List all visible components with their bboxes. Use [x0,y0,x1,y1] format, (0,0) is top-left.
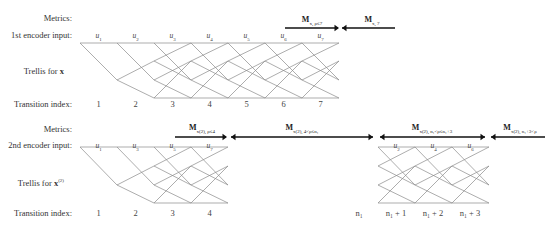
top-branch [265,61,302,98]
transition-index-bottom: 3 [170,208,174,218]
transition-index-bottom: 4 [207,208,211,218]
top-branch [154,43,191,80]
metric-arrow-head-left [342,25,346,31]
trellis-x-text: Trellis for [24,66,60,76]
trellis-diagram [0,0,551,231]
enc2-input-symbol: u5 [169,141,175,152]
bottom-left-branch [191,147,228,185]
enc1-input-symbol: u2 [132,31,138,42]
enc2-input-symbol-right: u4 [430,141,436,152]
top-branch [191,80,228,98]
top-branch [117,43,154,80]
bottom-left-branch [80,147,117,185]
transition-index-top: 7 [318,99,322,109]
metric-arrow-head-left [491,134,495,140]
metric-label-top-future: Mx, 7 [364,15,379,26]
bottom-left-branch [117,166,154,185]
metric-label-bottom-3: Mx(2), n₁<ρ≤n₁+3 [412,123,452,134]
top-branch [302,80,339,98]
top-branch [265,43,302,80]
enc1-input-symbol: u4 [206,31,212,42]
enc1-input-symbol: u5 [243,31,249,42]
metric-arrow-head-right [335,25,339,31]
enc2-input-symbol-right: u6 [467,141,473,152]
bottom-left-branch [117,185,154,203]
top-branch [302,43,339,61]
bottom-right-branch [452,185,489,203]
top-branch [302,61,339,98]
transition-index-bottom-right: n₁ + 1 [386,208,407,218]
metric-label-top-past: Mx, ρ≤7 [302,15,322,26]
transition-index-bottom-right: n₁ + 2 [423,208,444,218]
bottom-right-branch [415,185,452,203]
bottom-right-branch [452,166,489,203]
metrics-label-bottom: Metrics: [2,124,72,134]
transition-index-bottom-right: n₁ + 3 [460,208,481,218]
metrics-label-top: Metrics: [2,13,72,23]
bottom-right-branch [378,185,415,203]
enc2-input-label: 2nd encoder input: [2,140,72,150]
x2-superscript: (2) [58,178,64,183]
metric-label-bottom-1: Mx(2), ρ≤4 [189,123,215,134]
metric-arrow-head-right [223,134,227,140]
metric-arrow-head-left [380,134,384,140]
bottom-left-branch [154,147,191,185]
transition-index-bottom: 2 [133,208,137,218]
trellis-x2-text: Trellis for [18,178,54,188]
top-branch [154,61,191,98]
transition-index-bottom: 1 [96,208,100,218]
top-branch [154,43,191,61]
enc1-input-label: 1st encoder input: [2,30,72,40]
bottom-right-branch [452,147,489,185]
top-branch [228,61,265,98]
top-branch [228,80,265,98]
top-branch [228,43,265,61]
bottom-left-branch [191,185,228,203]
enc2-input-symbol: u7 [206,141,212,152]
x-symbol: x [60,66,64,76]
metric-arrow-head-right [481,134,485,140]
enc1-input-symbol: u7 [317,31,323,42]
metric-arrow-head-right [369,134,373,140]
bottom-left-branch [191,166,228,203]
transition-index-top: 5 [244,99,248,109]
top-branch [154,80,191,98]
top-branch [80,43,117,80]
enc2-input-symbol-right: u2 [393,141,399,152]
metric-arrow-head-left [231,134,235,140]
enc1-input-symbol: u3 [169,31,175,42]
transition-index-top: 1 [96,99,100,109]
top-branch [191,43,228,61]
top-branch [191,61,228,98]
transition-index-top: 3 [170,99,174,109]
transition-index-top: 4 [207,99,211,109]
bottom-left-branch [117,147,154,185]
enc2-input-symbol: u1 [95,141,101,152]
transition-index-top: 6 [281,99,285,109]
bottom-right-branch [378,147,415,185]
metric-label-bottom-4: Mx(2), n₁+3<ρ [503,123,536,134]
enc1-input-symbol: u1 [95,31,101,42]
top-branch [228,43,265,80]
transition-index-bottom-right: n₁ [355,208,362,218]
top-branch [191,43,228,80]
top-branch [117,61,154,80]
top-branch [265,43,302,61]
trellis-x2-label: Trellis for x(2) [0,178,64,188]
enc2-input-symbol: u3 [132,141,138,152]
bottom-right-branch [378,166,415,203]
trellis-x-label: Trellis for x [0,66,64,76]
top-branch [265,80,302,98]
bottom-right-branch [415,147,452,185]
top-branch [117,80,154,98]
metric-label-bottom-2: Mx(2), 4<ρ≤n₁ [285,123,318,134]
transition-index-top: 2 [133,99,137,109]
transition-index-label-bottom: Transition index: [2,208,72,218]
bottom-left-branch [154,166,191,203]
transition-index-label-top: Transition index: [2,99,72,109]
top-branch [302,43,339,80]
enc1-input-symbol: u6 [280,31,286,42]
bottom-left-branch [154,185,191,203]
bottom-right-branch [415,166,452,203]
